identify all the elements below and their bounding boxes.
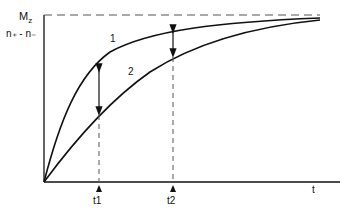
- x-axis-label: t: [312, 184, 315, 195]
- t2-label: t2: [167, 195, 176, 206]
- t1-marker-icon: [96, 185, 102, 192]
- t2-marker-icon: [170, 185, 176, 192]
- curve-1: [44, 18, 320, 182]
- curve-2: [44, 20, 320, 182]
- curve-1-label: 1: [110, 33, 116, 44]
- y-label-mz: Mz: [19, 10, 32, 25]
- curve-2-label: 2: [128, 66, 134, 77]
- magnetization-diagram: Mz n₊ - n₋ 1 2 t t1 t2: [0, 0, 348, 215]
- t1-label: t1: [93, 195, 102, 206]
- y-label-population-difference: n₊ - n₋: [6, 28, 36, 39]
